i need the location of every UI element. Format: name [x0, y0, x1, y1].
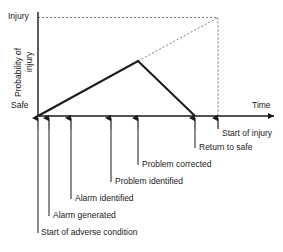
- event-label-start-of-injury: Start of injury: [222, 129, 272, 138]
- projected-risk-dashed-line: [138, 18, 218, 62]
- event-label-return-to-safe: Return to safe: [199, 143, 252, 152]
- event-label-alarm-generated: Alarm generated: [53, 211, 116, 220]
- event-label-problem-corrected: Problem corrected: [142, 160, 211, 169]
- y-axis-title-line1: Probability of: [14, 48, 23, 97]
- y-tick-label-safe: Safe: [11, 101, 29, 110]
- event-label-start-of-adverse-condition: Start of adverse condition: [41, 228, 137, 237]
- x-axis-title-time: Time: [252, 101, 271, 110]
- diagram-canvas: [0, 0, 283, 252]
- event-label-alarm-identified: Alarm identified: [75, 194, 134, 203]
- risk-trajectory-line: [38, 61, 195, 116]
- y-axis-title-line2: injury: [25, 52, 34, 72]
- y-tick-label-injury: Injury: [8, 12, 29, 21]
- event-label-problem-identified: Problem identified: [115, 177, 183, 186]
- injury-probability-diagram: Injury Safe Probability of injury Time S…: [0, 0, 283, 252]
